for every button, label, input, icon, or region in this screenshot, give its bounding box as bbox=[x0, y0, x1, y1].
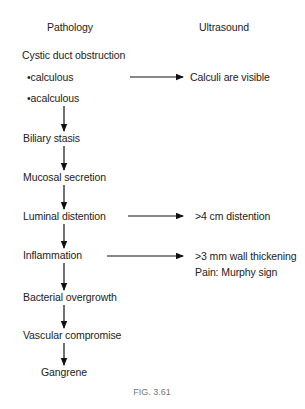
finding-calculi-visible: Calculi are visible bbox=[190, 71, 270, 83]
finding-distention: >4 cm distention bbox=[195, 210, 270, 222]
figure-caption: FIG. 3.61 bbox=[133, 387, 171, 397]
step-mucosal-secretion: Mucosal secretion bbox=[23, 171, 106, 183]
sub-item-calculous: •calculous bbox=[27, 71, 73, 83]
step-bacterial-overgrowth: Bacterial overgrowth bbox=[23, 291, 117, 303]
step-cystic-duct-obstruction: Cystic duct obstruction bbox=[22, 49, 125, 61]
step-inflammation: Inflammation bbox=[23, 249, 82, 261]
sub-item-acalculous: •acalculous bbox=[27, 92, 79, 104]
step-biliary-stasis: Biliary stasis bbox=[23, 132, 80, 144]
step-luminal-distention: Luminal distention bbox=[23, 210, 106, 222]
step-vascular-compromise: Vascular compromise bbox=[23, 329, 121, 341]
pathology-header: Pathology bbox=[47, 21, 93, 33]
step-gangrene: Gangrene bbox=[41, 366, 87, 378]
ultrasound-header: Ultrasound bbox=[199, 21, 249, 33]
finding-murphy-sign: Pain: Murphy sign bbox=[195, 266, 277, 278]
finding-wall-thickening: >3 mm wall thickening bbox=[195, 250, 297, 262]
arrows-layer bbox=[0, 0, 305, 409]
